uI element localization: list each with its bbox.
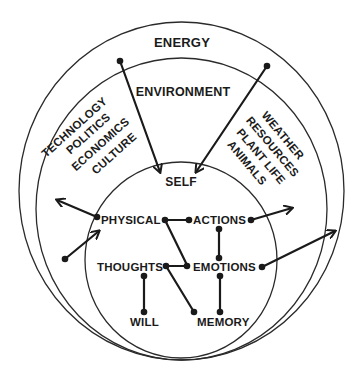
self-ring	[85, 162, 277, 358]
energy-to-self-arrow-left	[117, 58, 160, 172]
node-physical: PHYSICAL	[101, 214, 161, 226]
energy-ring	[19, 22, 344, 360]
node-emotions: EMOTIONS	[193, 261, 256, 273]
node-will: WILL	[130, 316, 159, 328]
actions-to-environment-arrow	[251, 208, 292, 220]
node-actions: ACTIONS	[193, 214, 246, 226]
self-label: SELF	[165, 175, 196, 189]
physical-to-environment-arrow	[57, 200, 97, 217]
energy-label: ENERGY	[154, 35, 210, 50]
environment-to-physical-arrow	[62, 231, 99, 262]
environment-label: ENVIRONMENT	[136, 85, 231, 99]
emotions-to-energy-arrow	[262, 231, 335, 267]
self-environment-energy-diagram: ENERGY ENVIRONMENT SELF TECHNOLOGY POLIT…	[0, 0, 362, 380]
environment-right-factors: WEATHER RESOURCES PLANT LIFE ANIMALS	[221, 105, 313, 199]
node-thoughts: THOUGHTS	[97, 261, 163, 273]
node-memory: MEMORY	[197, 316, 250, 328]
